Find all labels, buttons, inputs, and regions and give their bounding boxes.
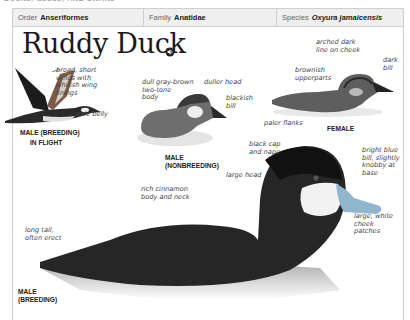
male-breeding-illustration: [20, 140, 390, 315]
caption-female: Female: [327, 125, 354, 133]
label-pale-belly: pale belly: [76, 111, 108, 119]
label-paler-flanks: paler flanks: [264, 120, 303, 128]
running-head: Ducks, Geese, and Swans: [4, 0, 115, 3]
female-illustration: [268, 70, 398, 120]
field-guide-page: Ducks, Geese, and Swans Order Anseriform…: [0, 0, 410, 320]
label-arched-cheek-line: arched dark line on cheek: [316, 39, 360, 54]
label-wings: broad, short wings with whitish wing lin…: [56, 67, 97, 97]
order-label: Order: [18, 13, 37, 22]
family-label: Family: [149, 13, 171, 22]
label-blue-bill: bright blue bill, slightly knobby at bas…: [362, 147, 400, 177]
caption-male-breeding-flight: Male (Breeding): [20, 129, 80, 137]
label-black-cap: black cap and nape: [249, 141, 280, 156]
label-long-tail: long tail, often erect: [25, 227, 61, 242]
label-dark-bill: dark bill: [383, 57, 398, 72]
species-value: Oxyura jamaicensis: [312, 13, 382, 22]
label-large-head: large head: [226, 172, 261, 180]
species-label: Species: [282, 13, 309, 22]
label-gray-brown-body: dull gray-brown two-tone body: [142, 79, 194, 102]
label-white-cheek: large, white cheek patches: [354, 213, 393, 236]
page-title: Ruddy Duck: [22, 28, 186, 59]
label-cinnamon-body: rich cinnamon body and neck: [141, 186, 190, 201]
taxon-species: Species Oxyura jamaicensis: [277, 9, 403, 26]
taxonomy-bar: Order Anseriformes Family Anatidae Speci…: [12, 8, 404, 27]
label-brownish-upperparts: brownish upperparts: [295, 67, 331, 82]
label-blackish-bill: blackish bill: [226, 95, 253, 110]
caption-male-breeding: Male (Breeding): [18, 288, 57, 304]
order-value: Anseriformes: [40, 13, 88, 22]
speaker-icon[interactable]: [165, 42, 175, 52]
taxon-family: Family Anatidae: [144, 9, 277, 26]
label-duller-head: duller head: [204, 79, 241, 87]
taxon-order: Order Anseriformes: [13, 9, 144, 26]
family-value: Anatidae: [174, 13, 206, 22]
